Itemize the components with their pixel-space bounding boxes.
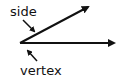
side-label: side bbox=[10, 4, 37, 19]
angle-diagram: side vertex bbox=[0, 0, 122, 79]
side-pointer-arrow bbox=[23, 20, 34, 31]
vertex-label: vertex bbox=[20, 63, 62, 78]
vertex-pointer-arrow bbox=[28, 51, 37, 61]
